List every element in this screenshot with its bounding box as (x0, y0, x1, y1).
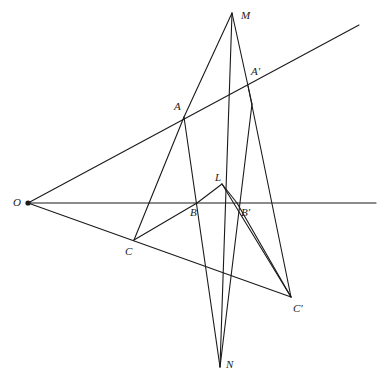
points-group (25, 200, 30, 205)
point-label-B: B (190, 207, 197, 218)
point-label-Cp: C′ (293, 303, 303, 314)
segment-B-to-L (197, 184, 222, 203)
geometry-canvas (0, 0, 382, 383)
segment-Ap-to-Cp (248, 86, 291, 297)
point-label-O: O (13, 197, 21, 208)
point-label-A: A (174, 101, 181, 112)
segment-A-to-N (184, 117, 220, 367)
segments-group (28, 13, 376, 367)
geometry-figure: OMA′ALBB′CC′N (0, 0, 382, 383)
segment-M-to-A (184, 13, 232, 117)
vertex-dot-O (25, 200, 30, 205)
segment-A-to-C (134, 117, 184, 240)
segment-C-to-B (134, 203, 197, 240)
point-label-C: C (125, 246, 132, 257)
point-label-Bp: B′ (241, 207, 250, 218)
point-label-L: L (215, 172, 221, 183)
line-O-through-A-to-Ap (28, 25, 359, 203)
point-label-M: M (241, 10, 250, 21)
line-O-through-C-to-Cp (28, 203, 291, 297)
point-label-Ap: A′ (251, 66, 260, 77)
point-label-N: N (226, 359, 233, 370)
